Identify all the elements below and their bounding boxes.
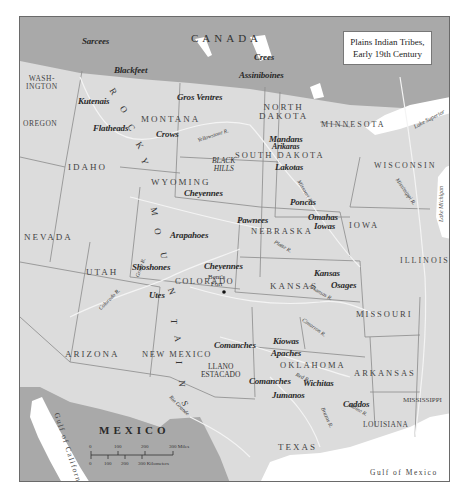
- scale-miles-200: 200: [141, 444, 149, 449]
- label-canada: CANADA: [191, 33, 262, 44]
- tribe-cheyennes-south: Cheyennes: [204, 262, 243, 271]
- label-louisiana: LOUISIANA: [363, 421, 408, 429]
- bents-fort-marker: [222, 290, 226, 294]
- place-llano-estacado: LLANOESTACADO: [201, 363, 240, 378]
- tribe-flatheads: Flatheads: [93, 124, 128, 133]
- label-nevada: NEVADA: [24, 233, 73, 242]
- rocky-mtn-letter: O: [152, 228, 162, 236]
- map-shapes: [20, 17, 450, 482]
- label-idaho: IDAHO: [68, 163, 107, 172]
- label-mississippi: MISSISSIPPI: [403, 397, 442, 404]
- label-gulf-of-mexico: Gulf of Mexico: [370, 469, 438, 477]
- label-nebraska: NEBRASKA: [251, 227, 313, 236]
- tribe-crees: Crees: [254, 53, 274, 62]
- scale-miles-300: 300 Miles: [169, 444, 189, 449]
- tribe-pawnees: Pawnees: [237, 216, 268, 225]
- tribe-assiniboines: Assiniboines: [239, 71, 284, 80]
- map-title-box: Plains Indian Tribes, Early 19th Century: [343, 31, 432, 65]
- place-black-hills: BLACKHILLS: [212, 157, 235, 172]
- label-north-dakota: NORTHDAKOTA: [259, 103, 308, 121]
- label-new-mexico: NEW MEXICO: [142, 350, 212, 359]
- label-arizona: ARIZONA: [65, 350, 120, 359]
- rocky-mtn-letter: I: [174, 361, 183, 364]
- map: Plains Indian Tribes, Early 19th Century…: [19, 16, 450, 482]
- label-lake-michigan: Lake Michigan: [438, 186, 444, 222]
- rocky-mtn-letter: A: [172, 335, 182, 343]
- scale-km-300: 300 Kilometers: [138, 461, 169, 466]
- map-title-line2: Early 19th Century: [344, 48, 431, 60]
- scale-miles-100: 100: [114, 444, 122, 449]
- label-minnesota: MINNESOTA: [321, 121, 385, 129]
- tribe-arikaras: Arikaras: [272, 143, 299, 151]
- label-mexico: MEXICO: [99, 425, 169, 436]
- tribe-kiowas: Kiowas: [273, 337, 299, 346]
- tribe-iowas: Iowas: [314, 222, 335, 231]
- label-iowa: IOWA: [349, 221, 379, 230]
- label-south-dakota: SOUTH DAKOTA: [235, 151, 325, 160]
- tribe-sarcees: Sarcees: [82, 37, 109, 46]
- tribe-apaches: Apaches: [271, 349, 301, 358]
- tribe-arapahoes: Arapahoes: [170, 231, 208, 240]
- place-bents-fort: Bent'sFort: [208, 274, 225, 288]
- label-wisconsin: WISCONSIN: [374, 162, 436, 170]
- label-oregon: OREGON: [23, 120, 57, 128]
- tribe-crows: Crows: [156, 130, 179, 139]
- tribe-kutenais: Kutenais: [78, 97, 109, 106]
- tribe-jumanos: Jumanos: [272, 391, 305, 400]
- tribe-comanches-north: Comanches: [214, 341, 256, 350]
- scale-miles-0: 0: [89, 444, 92, 449]
- rocky-mtn-letter: T: [169, 319, 178, 325]
- tribe-osages: Osages: [331, 281, 356, 290]
- label-utah: UTAH: [86, 268, 118, 277]
- rocky-mtn-letter: U: [158, 252, 168, 260]
- label-colorado: COLORADO: [175, 277, 234, 286]
- tribe-blackfeet: Blackfeet: [114, 66, 147, 75]
- scale-km-100: 100: [104, 461, 112, 466]
- label-arkansas: ARKANSAS: [354, 369, 416, 378]
- label-illinois: ILLINOIS: [400, 257, 450, 265]
- tribe-utes: Utes: [149, 291, 165, 300]
- label-missouri: MISSOURI: [356, 310, 413, 319]
- tribe-cheyennes-north: Cheyennes: [184, 189, 223, 198]
- tribe-comanches-south: Comanches: [249, 377, 291, 386]
- map-title-line1: Plains Indian Tribes,: [344, 36, 431, 48]
- scale-km-200: 200: [121, 461, 129, 466]
- tribe-kansas: Kansas: [314, 269, 340, 278]
- tribe-gros-ventres: Gros Ventres: [177, 93, 222, 102]
- rocky-mtn-letter: M: [149, 207, 159, 216]
- scale-km-0: 0: [89, 461, 92, 466]
- label-oklahoma: OKLAHOMA: [280, 361, 346, 370]
- label-washington: WASH-INGTON: [26, 75, 58, 90]
- label-texas: TEXAS: [278, 443, 317, 452]
- rocky-mtn-letter: N: [177, 380, 186, 387]
- tribe-lakotas: Lakotas: [275, 163, 303, 172]
- label-wyoming: WYOMING: [151, 178, 211, 187]
- label-montana: MONTANA: [141, 115, 200, 124]
